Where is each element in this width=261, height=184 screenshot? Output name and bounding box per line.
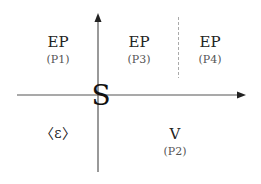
axes-canvas <box>0 0 261 184</box>
origin-label: S <box>91 82 110 110</box>
region-epsilon-title: 〈ε〉 <box>40 122 75 142</box>
region-p4-subtitle: (P4) <box>199 53 222 66</box>
region-p4-title: EP <box>199 33 220 51</box>
region-p2-title: V <box>170 125 181 143</box>
up-arrow-icon <box>95 13 102 22</box>
right-arrow-icon <box>237 92 246 99</box>
region-p1-subtitle: (P1) <box>47 53 70 66</box>
region-p3-title: EP <box>128 33 149 51</box>
region-p3-subtitle: (P3) <box>128 53 151 66</box>
region-p1-title: EP <box>47 33 68 51</box>
region-p2-subtitle: (P2) <box>164 145 187 158</box>
